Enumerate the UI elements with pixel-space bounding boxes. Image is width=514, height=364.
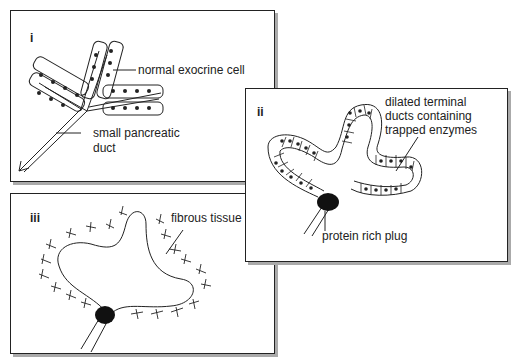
- label-dilated-ducts-3: trapped enzymes: [385, 123, 477, 137]
- label-small-pancreatic-duct-2: duct: [93, 141, 116, 155]
- normal-duct-drawing: [11, 11, 276, 183]
- protein-plug: [95, 306, 115, 324]
- label-fibrous-tissue: fibrous tissue: [171, 211, 242, 225]
- label-dilated-ducts-2: ducts containing: [385, 109, 472, 123]
- panel-iii-fibrosis: iii fibrous tissue: [10, 193, 275, 354]
- label-small-pancreatic-duct-1: small pancreatic: [93, 126, 180, 140]
- label-dilated-ducts-1: dilated terminal: [385, 95, 466, 109]
- panel-numeral: iii: [30, 211, 40, 225]
- panel-ii-obstruction: ii dilated terminal ducts containing tra…: [245, 88, 508, 262]
- label-normal-exocrine-cell: normal exocrine cell: [138, 63, 245, 77]
- panel-numeral: i: [30, 31, 33, 45]
- label-protein-rich-plug: protein rich plug: [322, 229, 407, 243]
- panel-numeral: ii: [257, 105, 264, 119]
- panel-i-normal-duct: i normal exocrine cell small pancreatic …: [10, 10, 275, 182]
- protein-plug: [317, 193, 339, 211]
